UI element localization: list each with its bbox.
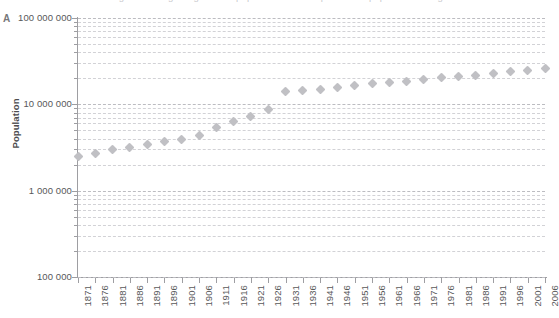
gridline-minor bbox=[78, 251, 545, 252]
x-tick-label: 1991 bbox=[497, 285, 508, 307]
x-tick-label: 1916 bbox=[238, 285, 249, 307]
y-tick-minor bbox=[74, 123, 78, 124]
y-tick-label: 100 000 bbox=[0, 271, 72, 282]
x-tick-label: 1961 bbox=[393, 285, 404, 307]
x-tick bbox=[320, 278, 321, 283]
x-tick bbox=[337, 278, 338, 283]
gridline-major bbox=[78, 18, 545, 19]
x-tick bbox=[216, 278, 217, 283]
y-tick-minor bbox=[74, 130, 78, 131]
y-tick-minor bbox=[74, 139, 78, 140]
y-tick-minor bbox=[74, 113, 78, 114]
x-tick-label: 1951 bbox=[359, 285, 370, 307]
gridline-minor bbox=[78, 118, 545, 119]
x-tick bbox=[545, 278, 546, 283]
x-tick bbox=[251, 278, 252, 283]
y-tick-minor bbox=[74, 195, 78, 196]
y-tick-minor bbox=[74, 236, 78, 237]
x-tick bbox=[182, 278, 183, 283]
x-tick bbox=[355, 278, 356, 283]
gridline-minor bbox=[78, 26, 545, 27]
gridline-minor bbox=[78, 165, 545, 166]
x-tick-label: 1966 bbox=[411, 285, 422, 307]
y-tick-minor bbox=[74, 251, 78, 252]
x-tick bbox=[303, 278, 304, 283]
x-tick-label: 1871 bbox=[82, 285, 93, 307]
x-tick bbox=[147, 278, 148, 283]
gridline-minor bbox=[78, 44, 545, 45]
x-tick-label: 1886 bbox=[134, 285, 145, 307]
gridline-major bbox=[78, 104, 545, 105]
x-tick-label: 2001 bbox=[532, 285, 543, 307]
x-tick-label: 1906 bbox=[203, 285, 214, 307]
cut-off-title: Figure 1. Long-run growth of population … bbox=[0, 0, 559, 9]
x-tick-label: 1896 bbox=[168, 285, 179, 307]
y-tick-minor bbox=[74, 204, 78, 205]
gridline-minor bbox=[78, 204, 545, 205]
x-tick-label: 1946 bbox=[341, 285, 352, 307]
x-tick bbox=[234, 278, 235, 283]
gridline-minor bbox=[78, 31, 545, 32]
gridline-minor bbox=[78, 63, 545, 64]
y-tick-label: 10 000 000 bbox=[0, 98, 72, 109]
y-tick-minor bbox=[74, 22, 78, 23]
x-tick-label: 2006 bbox=[549, 285, 559, 307]
y-tick-minor bbox=[74, 225, 78, 226]
x-tick bbox=[78, 278, 79, 283]
x-tick-label: 1941 bbox=[324, 285, 335, 307]
y-axis-label: Population bbox=[10, 84, 21, 164]
y-tick-minor bbox=[74, 165, 78, 166]
x-tick bbox=[130, 278, 131, 283]
y-tick-minor bbox=[74, 199, 78, 200]
y-tick-minor bbox=[74, 118, 78, 119]
figure-panel: Figure 1. Long-run growth of population … bbox=[0, 0, 559, 318]
x-tick-label: 1981 bbox=[463, 285, 474, 307]
x-tick-label: 1876 bbox=[99, 285, 110, 307]
y-tick-minor bbox=[74, 210, 78, 211]
x-tick bbox=[164, 278, 165, 283]
x-tick-label: 1996 bbox=[514, 285, 525, 307]
gridline-minor bbox=[78, 236, 545, 237]
figure-title-text: Figure 1. Long-run growth of population … bbox=[111, 0, 449, 2]
x-tick-label: 1911 bbox=[220, 285, 231, 306]
x-tick bbox=[441, 278, 442, 283]
y-tick-minor bbox=[74, 52, 78, 53]
x-tick-label: 1881 bbox=[117, 285, 128, 307]
y-tick-minor bbox=[74, 108, 78, 109]
y-tick-minor bbox=[74, 217, 78, 218]
y-tick-minor bbox=[74, 63, 78, 64]
x-tick bbox=[407, 278, 408, 283]
gridline-minor bbox=[78, 195, 545, 196]
x-tick-label: 1956 bbox=[376, 285, 387, 307]
x-tick-label: 1926 bbox=[272, 285, 283, 307]
y-tick-label: 1 000 000 bbox=[0, 185, 72, 196]
gridline-minor bbox=[78, 130, 545, 131]
y-tick-minor bbox=[74, 26, 78, 27]
y-tick-label: 100 000 000 bbox=[0, 12, 72, 23]
gridline-minor bbox=[78, 149, 545, 150]
x-tick bbox=[459, 278, 460, 283]
gridline-minor bbox=[78, 22, 545, 23]
gridline-major bbox=[78, 191, 545, 192]
x-tick-label: 1901 bbox=[186, 285, 197, 307]
x-tick bbox=[528, 278, 529, 283]
gridline-minor bbox=[78, 108, 545, 109]
gridline-minor bbox=[78, 217, 545, 218]
x-tick bbox=[286, 278, 287, 283]
gridline-minor bbox=[78, 37, 545, 38]
x-tick bbox=[424, 278, 425, 283]
x-tick-label: 1986 bbox=[480, 285, 491, 307]
y-tick-minor bbox=[74, 78, 78, 79]
x-tick-label: 1891 bbox=[151, 285, 162, 307]
x-tick bbox=[95, 278, 96, 283]
gridline-minor bbox=[78, 52, 545, 53]
gridline-minor bbox=[78, 113, 545, 114]
x-tick-label: 1921 bbox=[255, 285, 266, 307]
x-tick bbox=[268, 278, 269, 283]
x-tick bbox=[113, 278, 114, 283]
x-tick bbox=[389, 278, 390, 283]
y-tick-minor bbox=[74, 44, 78, 45]
y-tick-major bbox=[72, 18, 78, 19]
x-tick bbox=[510, 278, 511, 283]
x-tick bbox=[493, 278, 494, 283]
